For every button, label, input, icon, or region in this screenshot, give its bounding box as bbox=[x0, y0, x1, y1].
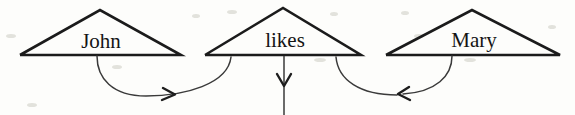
paper-specks bbox=[6, 10, 556, 107]
likes-right-branch-curve bbox=[336, 57, 397, 95]
node-likes: likes bbox=[205, 8, 361, 55]
likes-label: likes bbox=[265, 28, 305, 52]
node-mary: Mary bbox=[386, 10, 560, 55]
john-to-likes-curve bbox=[97, 56, 231, 96]
diagram-canvas: John likes Mary bbox=[0, 0, 575, 115]
john-label: John bbox=[81, 29, 121, 53]
link-likes-downward bbox=[277, 56, 291, 115]
link-likes-right-branch bbox=[336, 57, 397, 95]
link-john-to-likes bbox=[97, 56, 231, 100]
mary-label: Mary bbox=[451, 28, 497, 52]
link-mary-to-likes bbox=[398, 56, 452, 100]
node-john: John bbox=[20, 10, 181, 55]
mary-to-likes-curve bbox=[403, 56, 452, 94]
syntax-tree-figure: John likes Mary bbox=[0, 0, 575, 115]
